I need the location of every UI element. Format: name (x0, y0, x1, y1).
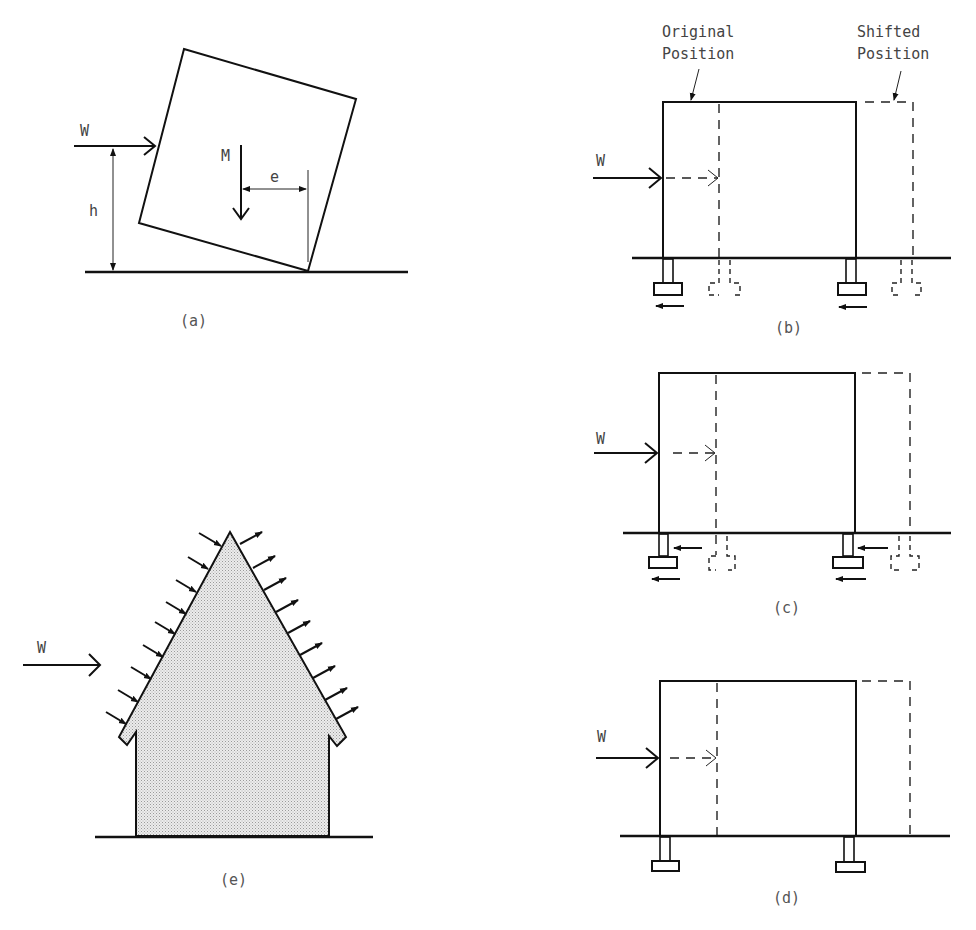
footing-right (838, 259, 867, 307)
shifted-label-line2: Position (857, 45, 929, 63)
wind-arrow-icon (596, 748, 716, 768)
wind-arrow-icon (593, 168, 718, 188)
original-label-line2: Position (662, 45, 734, 63)
wind-label: W (37, 639, 47, 657)
eccentricity-label: e (270, 168, 279, 186)
wind-label: W (596, 152, 606, 170)
panel-a: W h M e (a) (74, 49, 408, 330)
gabled-house (119, 532, 346, 836)
panel-b: Original Position Shifted Position W (593, 23, 951, 337)
footing-right (833, 534, 888, 579)
panel-e: W (e) (23, 532, 373, 889)
original-frame (663, 102, 856, 257)
original-pointer (691, 69, 699, 100)
footing-left (649, 534, 702, 579)
wind-arrow-icon (23, 654, 100, 676)
panel-c: W (c) (594, 373, 951, 617)
caption-b: (b) (775, 319, 802, 337)
weight-arrow-icon (233, 145, 249, 219)
shifted-pointer (894, 71, 901, 100)
tilted-block (139, 49, 356, 271)
panel-d: W (d) (596, 681, 950, 907)
wind-load-diagram: W h M e (a) Original Position Shifted Po… (0, 0, 976, 930)
caption-c: (c) (773, 599, 800, 617)
footing-left (652, 837, 679, 871)
wind-label: W (597, 728, 607, 746)
shifted-footing-right (891, 536, 919, 570)
caption-d: (d) (773, 889, 800, 907)
caption-a: (a) (180, 312, 207, 330)
footing-left (654, 259, 684, 306)
height-label: h (89, 202, 98, 220)
footing-right (836, 837, 865, 872)
shifted-frame (862, 681, 910, 835)
shifted-footing-right (892, 260, 921, 295)
shifted-footing-left (709, 260, 740, 295)
original-label-line1: Original (662, 23, 734, 41)
shifted-frame (862, 373, 910, 532)
wind-label: W (596, 430, 606, 448)
shifted-frame (865, 102, 913, 257)
wind-label: W (80, 122, 90, 140)
shifted-footing-left (709, 536, 735, 570)
original-frame (659, 373, 855, 532)
wind-arrow-icon (594, 443, 715, 463)
caption-e: (e) (220, 871, 247, 889)
shifted-label-line1: Shifted (857, 23, 920, 41)
mass-label: M (221, 147, 230, 165)
